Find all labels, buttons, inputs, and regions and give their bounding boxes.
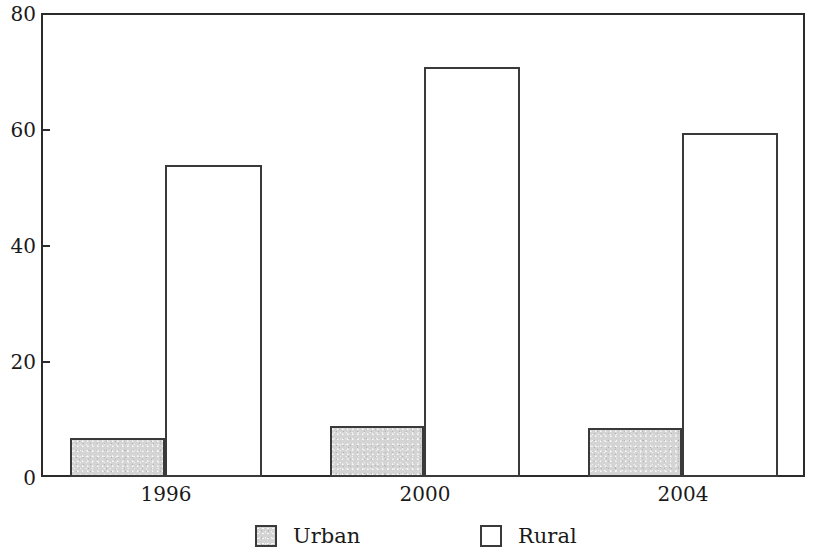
x-axis-label-1996: 1996	[126, 483, 206, 505]
bars-layer	[0, 0, 813, 557]
legend-item-rural[interactable]: Rural	[480, 525, 577, 547]
bar-urban-2004	[588, 428, 682, 477]
legend-swatch-rural-icon	[480, 525, 502, 547]
legend-label-urban: Urban	[293, 525, 360, 547]
x-axis-label-2000: 2000	[385, 483, 465, 505]
bar-urban-1996	[70, 438, 165, 477]
bar-chart: 80 60 40 20 0 1996 2000 2004 Urban Rural	[0, 0, 813, 557]
bar-rural-1996	[165, 165, 262, 477]
bar-urban-2000	[330, 426, 424, 477]
legend-label-rural: Rural	[518, 525, 577, 547]
legend: Urban Rural	[0, 522, 813, 554]
legend-swatch-urban-icon	[255, 525, 277, 547]
legend-item-urban[interactable]: Urban	[255, 525, 360, 547]
x-axis-label-2004: 2004	[643, 483, 723, 505]
bar-rural-2000	[424, 67, 520, 477]
bar-rural-2004	[682, 133, 778, 478]
